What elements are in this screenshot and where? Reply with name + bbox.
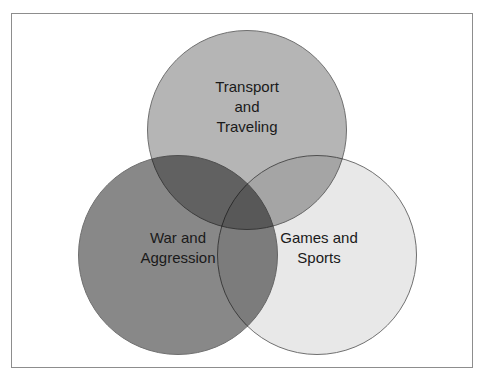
venn-diagram-figure: Transport and Traveling War and Aggressi… [0,0,487,380]
venn-label-war-and-aggression: War and Aggression [108,228,248,268]
venn-circle-stage [0,0,487,380]
venn-label-transport-and-traveling: Transport and Traveling [177,77,317,137]
venn-label-games-and-sports: Games and Sports [249,228,389,268]
